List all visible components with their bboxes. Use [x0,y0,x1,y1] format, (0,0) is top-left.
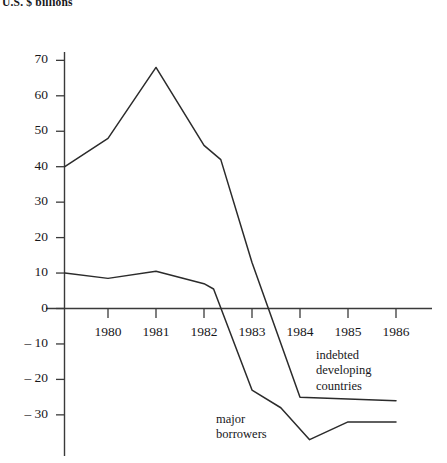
annotation-line: countries [316,379,372,394]
y-tick-label: 0 [8,300,48,316]
y-tick-label: 50 [8,122,48,138]
y-tick-label: 10 [8,264,48,280]
annotation-line: major [216,412,267,427]
y-axis-ticks [56,60,65,415]
x-tick-label: 1985 [324,324,372,340]
x-tick-label: 1981 [132,324,180,340]
x-tick-label: 1986 [372,324,420,340]
annotation-line: borrowers [216,427,267,442]
y-tick-label: 70 [8,51,48,67]
annotation-major-borrowers: majorborrowers [216,412,267,443]
plot-area [0,0,447,463]
x-tick-label: 1983 [228,324,276,340]
y-tick-label: – 10 [8,335,48,351]
chart-figure: U.S. $ billions 706050403020100– 10– 20–… [0,0,447,463]
y-tick-label: 20 [8,229,48,245]
annotation-indebted-developing-countries: indebteddevelopingcountries [316,348,372,394]
y-tick-label: 60 [8,87,48,103]
annotation-line: indebted [316,348,372,363]
x-tick-label: 1980 [84,324,132,340]
y-tick-label: 30 [8,193,48,209]
x-axis-ticks [108,309,396,319]
x-tick-label: 1984 [276,324,324,340]
y-tick-label: – 20 [8,370,48,386]
y-tick-label: 40 [8,158,48,174]
y-tick-label: – 30 [8,406,48,422]
annotation-line: developing [316,363,372,378]
x-tick-label: 1982 [180,324,228,340]
